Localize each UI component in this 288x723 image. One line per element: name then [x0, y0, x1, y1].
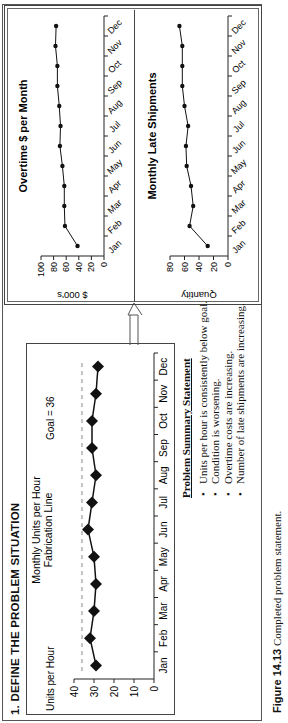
overtime-chart: Overtime $ per Month020406080100$ 000'sJ…: [7, 10, 134, 302]
svg-text:80: 80: [49, 262, 59, 272]
svg-text:Sep: Sep: [158, 439, 169, 457]
svg-text:Sep: Sep: [106, 78, 124, 96]
svg-text:Mar: Mar: [106, 198, 124, 216]
svg-text:Jul: Jul: [158, 496, 169, 509]
svg-text:Feb: Feb: [158, 629, 169, 647]
y-axis-label: Quantity: [181, 290, 217, 301]
svg-text:Nov: Nov: [158, 385, 169, 403]
svg-text:Apr: Apr: [158, 575, 169, 591]
summary-heading: Problem Summary Statement: [180, 301, 193, 498]
svg-text:30: 30: [89, 686, 100, 698]
arrow-connector-icon: [120, 301, 150, 345]
figure-caption: Figure 14.13 Completed problem statement…: [271, 511, 283, 713]
svg-text:May: May: [229, 157, 248, 176]
chart-title: Overtime $ per Month: [17, 79, 29, 192]
svg-text:Aug: Aug: [158, 466, 169, 484]
svg-text:Nov: Nov: [106, 37, 125, 56]
caption-text: Completed problem statement.: [271, 511, 283, 646]
y-axis-label: $ 000's: [57, 290, 88, 301]
problem-statement-page: 1. DEFINE THE PROBLEM SITUATION Monthly …: [0, 0, 288, 723]
goal-label: Goal = 36: [45, 396, 56, 440]
summary-list: Units per hour is consistently below goa…: [197, 301, 247, 498]
svg-text:20: 20: [109, 686, 120, 698]
svg-text:Mar: Mar: [230, 198, 248, 216]
chart-title: Monthly Units per Hour: [30, 476, 42, 584]
svg-text:Oct: Oct: [230, 58, 247, 75]
svg-text:20: 20: [209, 262, 219, 272]
svg-text:Jul: Jul: [107, 119, 122, 134]
svg-text:60: 60: [61, 262, 71, 272]
svg-text:May: May: [158, 547, 169, 566]
svg-text:Jan: Jan: [230, 238, 247, 255]
units-per-hour-chart: Monthly Units per HourFabrication LineUn…: [26, 345, 173, 715]
summary-item: Units per hour is consistently below goa…: [197, 301, 210, 484]
svg-text:Apr: Apr: [230, 178, 247, 195]
svg-text:20: 20: [86, 262, 96, 272]
svg-text:Dec: Dec: [106, 17, 125, 36]
svg-text:Jun: Jun: [230, 138, 247, 155]
problem-summary: Problem Summary Statement Units per hour…: [180, 301, 247, 498]
svg-text:Aug: Aug: [106, 98, 124, 116]
svg-text:Oct: Oct: [158, 413, 169, 429]
summary-item: Number of late shipments are increasing.: [234, 301, 247, 484]
svg-text:Dec: Dec: [158, 358, 169, 376]
svg-text:Jun: Jun: [158, 522, 169, 538]
svg-text:100: 100: [36, 262, 46, 277]
y-axis-label: Units per Hour: [45, 646, 56, 711]
svg-text:Jan: Jan: [106, 238, 123, 255]
svg-text:Jul: Jul: [231, 119, 246, 134]
svg-text:60: 60: [180, 262, 190, 272]
svg-text:Dec: Dec: [230, 17, 249, 36]
svg-text:40: 40: [194, 262, 204, 272]
chart-subtitle: Fabrication Line: [42, 492, 54, 567]
svg-text:Apr: Apr: [106, 178, 123, 195]
svg-text:Nov: Nov: [230, 37, 249, 56]
svg-text:80: 80: [165, 262, 175, 272]
caption-label: Figure 14.13: [271, 649, 283, 713]
svg-text:40: 40: [74, 262, 84, 272]
svg-text:40: 40: [69, 686, 80, 698]
svg-text:0: 0: [149, 686, 160, 692]
panel-divider: [134, 10, 135, 302]
late-shipments-chart: Monthly Late Shipments020406080QuantityJ…: [136, 10, 258, 302]
svg-text:Oct: Oct: [106, 58, 123, 75]
svg-text:Sep: Sep: [230, 78, 248, 96]
svg-text:Aug: Aug: [230, 98, 248, 116]
svg-text:Feb: Feb: [106, 218, 124, 236]
svg-text:10: 10: [129, 686, 140, 698]
svg-text:0: 0: [99, 262, 109, 267]
svg-text:May: May: [105, 157, 124, 176]
summary-item: Overtime costs are increasing.: [222, 301, 235, 484]
summary-item: Condition is worsening.: [209, 301, 222, 484]
svg-text:Jan: Jan: [158, 657, 169, 673]
svg-text:0: 0: [223, 262, 233, 267]
svg-text:Mar: Mar: [158, 602, 169, 620]
chart-title: Monthly Late Shipments: [146, 72, 158, 199]
section-title: 1. DEFINE THE PROBLEM SITUATION: [9, 503, 21, 715]
svg-text:Jun: Jun: [106, 138, 123, 155]
svg-text:Feb: Feb: [230, 218, 248, 236]
